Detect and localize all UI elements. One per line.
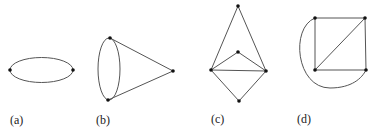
- graph-d: [300, 16, 368, 88]
- graph-figures-canvas: (a) (b) (c) (d): [0, 0, 376, 132]
- graph-d-edge: [365, 18, 366, 70]
- graph-c-vertex: [236, 50, 240, 54]
- graph-d-vertex: [364, 68, 368, 72]
- graph-diagrams: [0, 0, 376, 132]
- graph-b-edge: [110, 38, 173, 71]
- graph-b-vertex: [171, 69, 175, 73]
- figure-label-b: (b): [96, 113, 110, 128]
- graph-b-vertex: [106, 98, 110, 102]
- graph-c-edge: [211, 70, 266, 71]
- graph-c-edge: [211, 70, 239, 101]
- graph-c-vertex: [264, 69, 268, 73]
- graph-a-vertex: [8, 68, 12, 72]
- graph-d-diagonal-edge: [315, 18, 365, 70]
- graph-d-vertex: [313, 68, 317, 72]
- graph-c: [209, 4, 268, 103]
- figure-label-a: (a): [10, 113, 23, 128]
- graph-c-vertex: [209, 68, 213, 72]
- graph-b-edge: [108, 71, 173, 100]
- graph-d-vertex: [363, 16, 367, 20]
- graph-a: [8, 58, 75, 83]
- graph-d-arc-edge: [300, 18, 366, 88]
- graph-a-vertex: [71, 68, 75, 72]
- graph-b: [98, 36, 175, 102]
- graph-b-ellipse-edges: [98, 38, 120, 100]
- graph-b-vertex: [108, 36, 112, 40]
- graph-c-vertex: [237, 99, 241, 103]
- graph-d-vertex: [313, 16, 317, 20]
- figure-label-d: (d): [297, 112, 311, 127]
- figure-label-c: (c): [211, 112, 224, 127]
- graph-c-vertex: [236, 4, 240, 8]
- graph-a-ellipse-edges: [10, 58, 73, 83]
- graph-c-edge: [239, 71, 266, 101]
